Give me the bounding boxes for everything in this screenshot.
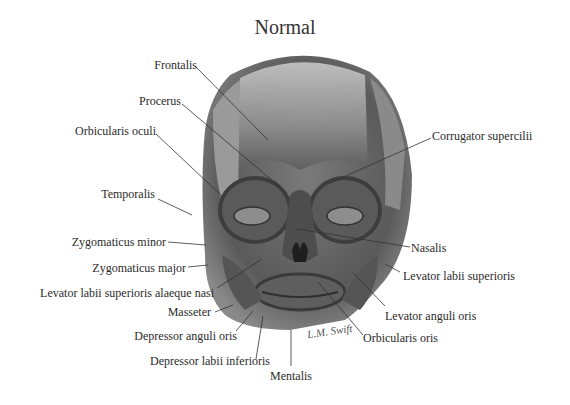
label-nasalis: Nasalis (411, 241, 446, 255)
facial-muscle-illustration (0, 0, 570, 405)
label-procerus: Procerus (139, 94, 181, 108)
label-levator-anguli-oris: Levator anguli oris (385, 309, 476, 323)
label-mentalis: Mentalis (270, 369, 312, 383)
label-depressor-labii-inferioris: Depressor labii inferioris (150, 354, 270, 368)
label-orbicularis-oris: Orbicularis oris (363, 331, 438, 345)
label-zygomaticus-major: Zygomaticus major (92, 261, 186, 275)
label-zygomaticus-minor: Zygomaticus minor (72, 235, 166, 249)
label-depressor-anguli-oris: Depressor anguli oris (134, 329, 237, 343)
label-levator-labii-alaeque-nasi: Levator labii superioris alaeque nasi (40, 286, 214, 300)
label-levator-labii-superioris: Levator labii superioris (403, 269, 515, 283)
label-masseter: Masseter (168, 305, 211, 319)
label-orbicularis-oculi: Orbicularis oculi (75, 124, 156, 138)
label-frontalis: Frontalis (154, 58, 197, 72)
label-temporalis: Temporalis (101, 187, 155, 201)
label-corrugator-supercilii: Corrugator supercilii (432, 129, 532, 143)
